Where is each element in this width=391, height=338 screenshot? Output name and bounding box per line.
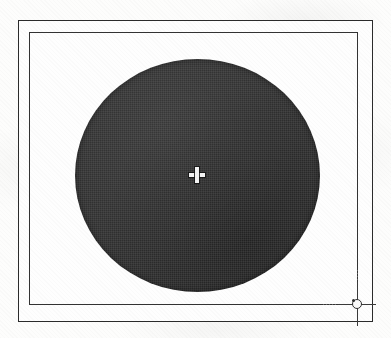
crosshair-cursor-icon-center-dot (352, 299, 355, 302)
cursor-horizontal-guide-dotted (323, 304, 336, 305)
outer-drawing-frame (18, 20, 373, 322)
plus-crosshair-icon-vertical-bar (195, 167, 199, 183)
center-point-marker (187, 165, 207, 185)
crosshair-cursor-icon-hub (352, 299, 362, 309)
drawing-canvas-screenshot (0, 0, 391, 338)
